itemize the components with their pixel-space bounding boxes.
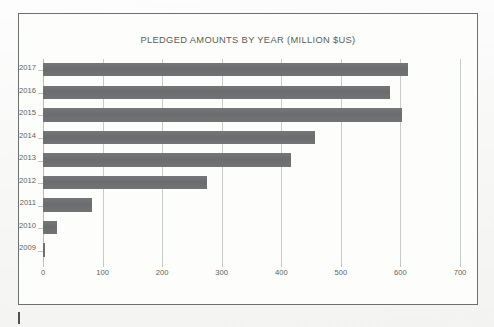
x-axis-label-400: 400 bbox=[275, 269, 288, 277]
x-axis-label-0: 0 bbox=[41, 269, 45, 277]
bar-row: 2010 bbox=[43, 217, 460, 239]
x-tick-300 bbox=[222, 262, 223, 267]
x-axis-label-700: 700 bbox=[454, 269, 467, 277]
chart-figure-frame: PLEDGED AMOUNTS BY YEAR (MILLION $US) 20… bbox=[18, 13, 478, 305]
bar-row: 2011 bbox=[43, 194, 460, 216]
y-tick-2014 bbox=[38, 138, 43, 139]
text-cursor-mark bbox=[18, 312, 20, 324]
y-tick-2010 bbox=[38, 228, 43, 229]
plot-area: 201720162015201420132012201120102009 bbox=[43, 59, 460, 262]
x-tick-600 bbox=[400, 262, 401, 267]
y-axis-label-2011: 2011 bbox=[20, 199, 36, 207]
x-tick-200 bbox=[162, 262, 163, 267]
y-axis-label-2015: 2015 bbox=[19, 109, 36, 117]
y-axis-label-2012: 2012 bbox=[19, 177, 36, 185]
bar-2012 bbox=[43, 176, 207, 189]
bar-row: 2016 bbox=[43, 82, 460, 104]
bar-2010 bbox=[43, 221, 57, 234]
bar-2015 bbox=[43, 108, 402, 121]
bar-2017 bbox=[43, 63, 408, 76]
y-tick-2017 bbox=[38, 70, 43, 71]
x-axis-label-300: 300 bbox=[215, 269, 228, 277]
x-axis-label-500: 500 bbox=[335, 269, 348, 277]
x-tick-700 bbox=[460, 262, 461, 267]
x-tick-100 bbox=[103, 262, 104, 267]
bar-2011 bbox=[43, 198, 92, 211]
chart-title: PLEDGED AMOUNTS BY YEAR (MILLION $US) bbox=[19, 35, 477, 45]
bar-row: 2013 bbox=[43, 149, 460, 171]
y-axis-label-2009: 2009 bbox=[19, 244, 36, 252]
bar-2016 bbox=[43, 86, 390, 99]
x-axis: 0100200300400500600700 bbox=[43, 262, 460, 282]
x-tick-400 bbox=[281, 262, 282, 267]
y-tick-2011 bbox=[38, 206, 43, 207]
y-tick-2016 bbox=[38, 93, 43, 94]
y-tick-2013 bbox=[38, 161, 43, 162]
bar-row: 2015 bbox=[43, 104, 460, 126]
y-axis-label-2014: 2014 bbox=[19, 132, 36, 140]
bar-row: 2017 bbox=[43, 59, 460, 81]
y-axis-label-2013: 2013 bbox=[19, 154, 36, 162]
y-tick-2015 bbox=[38, 115, 43, 116]
bar-row: 2012 bbox=[43, 172, 460, 194]
y-axis-label-2016: 2016 bbox=[19, 87, 36, 95]
bar-row: 2009 bbox=[43, 239, 460, 261]
y-tick-2009 bbox=[38, 251, 43, 252]
bar-2009 bbox=[43, 243, 45, 256]
bar-row: 2014 bbox=[43, 127, 460, 149]
x-axis-label-200: 200 bbox=[156, 269, 169, 277]
y-axis-label-2010: 2010 bbox=[19, 222, 36, 230]
bar-2013 bbox=[43, 153, 291, 166]
x-axis-label-100: 100 bbox=[96, 269, 109, 277]
x-tick-500 bbox=[341, 262, 342, 267]
gridline-700 bbox=[460, 59, 461, 262]
x-axis-label-600: 600 bbox=[394, 269, 407, 277]
y-axis-label-2017: 2017 bbox=[19, 64, 36, 72]
y-tick-2012 bbox=[38, 183, 43, 184]
x-tick-0 bbox=[43, 262, 44, 267]
bar-2014 bbox=[43, 131, 315, 144]
